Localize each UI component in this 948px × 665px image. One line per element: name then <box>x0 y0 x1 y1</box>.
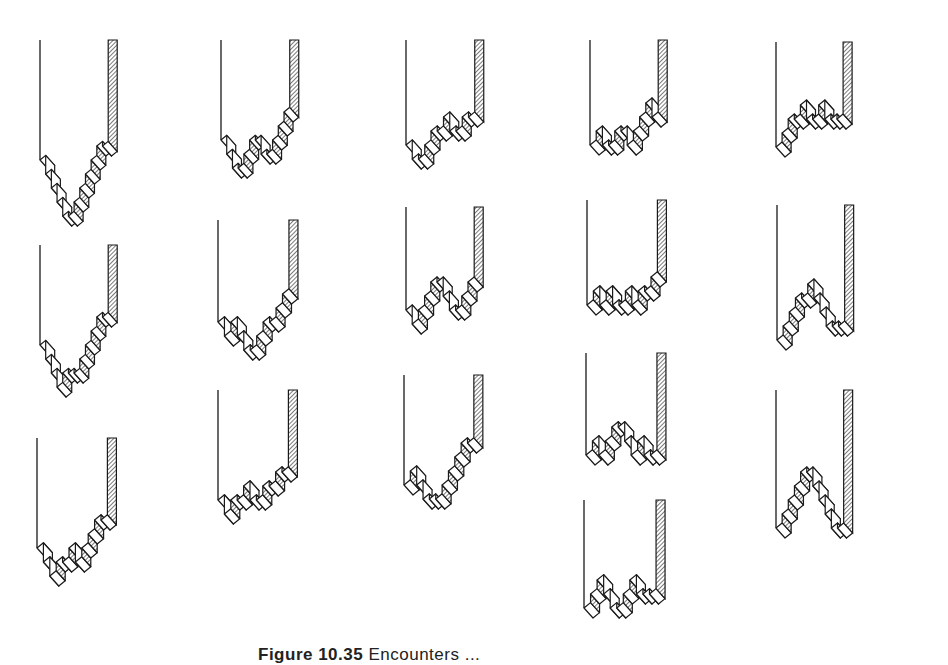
caption-text: Encounters ... <box>368 645 480 664</box>
hatched-end-bar <box>108 245 117 322</box>
hatched-end-bar <box>108 40 117 151</box>
hatched-end-bar <box>288 390 297 477</box>
hatched-end-bar <box>475 40 484 122</box>
ribbon-panel-r1c3 <box>406 40 484 169</box>
ribbon-panels <box>37 40 854 618</box>
hatched-end-bar <box>474 207 483 287</box>
hatched-end-bar <box>656 500 665 599</box>
hatched-end-bar <box>845 205 854 331</box>
hatched-end-bar <box>658 40 667 122</box>
ribbon-panel-r1c1 <box>40 40 117 226</box>
hatched-end-bar <box>289 220 298 299</box>
hatched-end-bar <box>474 375 483 448</box>
ribbon-panel-r2c4 <box>587 200 666 315</box>
hatched-end-bar <box>657 353 666 460</box>
ribbon-panel-r3c2 <box>218 390 297 524</box>
caption-label: Figure 10.35 <box>258 645 363 664</box>
ribbon-panel-r3c5 <box>776 390 853 538</box>
ribbon-panel-r3c1 <box>37 438 116 586</box>
ribbon-panel-r1c4 <box>590 40 667 155</box>
ribbon-panel-r2c2 <box>218 220 298 360</box>
ribbon-panel-r1c2 <box>221 40 299 178</box>
ribbon-panel-r3c3 <box>404 375 483 509</box>
hatched-end-bar <box>290 40 299 117</box>
hatched-end-bar <box>843 42 852 124</box>
hatched-end-bar <box>844 390 853 533</box>
ribbon-panel-r3c4 <box>586 353 666 465</box>
figure-caption: Figure 10.35 Encounters ... <box>258 645 480 665</box>
hatched-end-bar <box>657 200 666 282</box>
ribbon-panel-r2c3 <box>406 207 483 334</box>
ribbon-panel-r1c5 <box>776 42 852 157</box>
ribbon-panel-r4c4 <box>584 500 665 618</box>
ribbon-panel-r2c1 <box>40 245 117 397</box>
hatched-end-bar <box>107 438 116 525</box>
ribbon-panel-r2c5 <box>777 205 854 350</box>
